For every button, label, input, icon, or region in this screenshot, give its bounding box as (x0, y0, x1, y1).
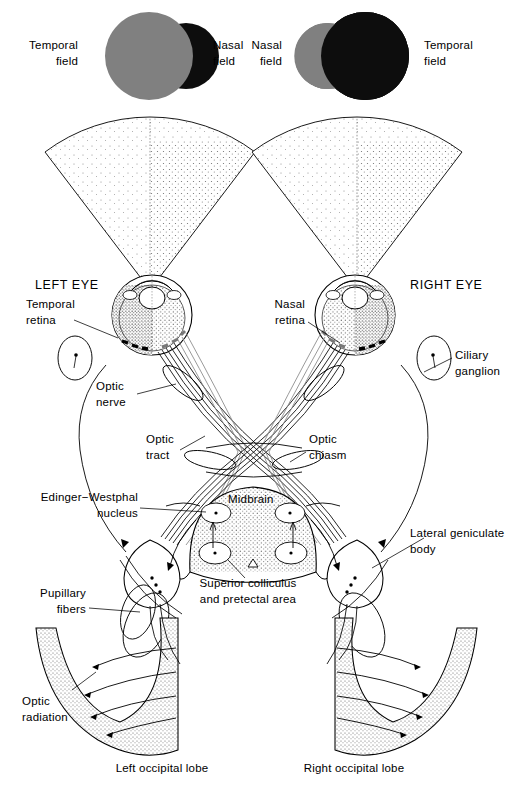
left-occipital-lobe-label: Left occipital lobe (92, 761, 232, 777)
visual-pathway-diagram: Temporal field Nasal field Nasal field T… (0, 0, 513, 787)
optic-radiation-label: Optic radiation (22, 694, 94, 725)
ciliary-ganglion-right (417, 336, 451, 380)
right-nasal-field-label: Nasal field (216, 38, 282, 69)
left-occipital-lobe (36, 618, 178, 755)
lateral-geniculate-body-right (327, 540, 383, 608)
optic-chiasm-label: Optic chiasm (309, 432, 369, 463)
left-visual-field-circles (105, 12, 219, 100)
midbrain-label: Midbrain (228, 492, 274, 508)
lateral-geniculate-label: Lateral geniculate body (410, 526, 513, 557)
left-eye-title: LEFT EYE (35, 277, 99, 294)
right-eye-title: RIGHT EYE (410, 277, 483, 294)
temporal-retina-label: Temporal retina (26, 297, 102, 328)
right-occipital-lobe-label: Right occipital lobe (281, 761, 427, 777)
diagram-canvas (0, 0, 513, 787)
optic-tract-label: Optic tract (146, 432, 192, 463)
right-visual-field-cone (252, 117, 472, 300)
ciliary-ganglion-left (58, 336, 92, 380)
edinger-westphal-label: Edinger−Westphal nucleus (20, 490, 138, 521)
ciliary-ganglion-label: Ciliary ganglion (455, 348, 511, 379)
right-temporal-field-label: Temporal field (424, 38, 504, 69)
right-occipital-lobe (335, 618, 477, 755)
nasal-retina-label: Nasal retina (243, 297, 305, 328)
superior-colliculus-label: Superior colliculus and pretectal area (162, 576, 334, 607)
optic-nerve-label: Optic nerve (96, 379, 144, 410)
left-temporal-field-label: Temporal field (6, 38, 78, 69)
right-visual-field-circles (294, 12, 409, 100)
left-visual-field-cone (45, 117, 265, 300)
pupillary-fibers-label: Pupillary fibers (8, 586, 86, 617)
